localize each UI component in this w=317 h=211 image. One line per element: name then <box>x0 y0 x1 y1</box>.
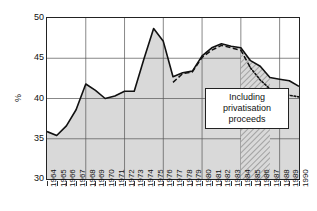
x-axis-tickmark <box>115 181 116 186</box>
x-axis-tickmark <box>154 181 155 186</box>
x-axis-tickmark <box>212 181 213 186</box>
x-axis-tickmark <box>251 181 252 186</box>
x-axis-tickmark <box>280 181 281 186</box>
y-axis-tick: 40 <box>22 94 44 103</box>
callout-line-2: privatisation <box>223 103 271 114</box>
x-axis-tickmark <box>270 181 271 186</box>
x-axis-tickmark <box>202 181 203 186</box>
x-axis-tick-labels: 1964196519661967196819691970197119721973… <box>46 181 300 211</box>
x-axis-tickmark <box>241 181 242 186</box>
x-axis-tickmark <box>125 181 126 186</box>
x-axis-tick: 1990 <box>302 169 310 187</box>
y-axis-tick: 35 <box>22 134 44 143</box>
x-axis-tickmark <box>86 181 87 186</box>
callout-line-3: proceeds <box>228 114 265 125</box>
x-axis-tickmark <box>47 181 48 186</box>
y-axis-tick: 50 <box>22 13 44 22</box>
x-axis-tickmark <box>231 181 232 186</box>
y-axis-tick-labels: 5045403530 <box>20 0 44 211</box>
x-axis-tickmark <box>76 181 77 186</box>
x-axis-tickmark <box>144 181 145 186</box>
x-axis-tickmark <box>173 181 174 186</box>
x-axis-tickmark <box>105 181 106 186</box>
y-axis-tick: 45 <box>22 53 44 62</box>
x-axis-tickmark <box>57 181 58 186</box>
x-axis-tickmark <box>299 181 300 186</box>
privatisation-callout: Including privatisation proceeds <box>205 88 289 129</box>
y-axis-tick: 30 <box>22 174 44 183</box>
callout-line-1: Including <box>229 92 265 103</box>
x-axis-tickmark <box>183 181 184 186</box>
chart-figure: % 5045403530 196419651966196719681969197… <box>0 0 317 211</box>
